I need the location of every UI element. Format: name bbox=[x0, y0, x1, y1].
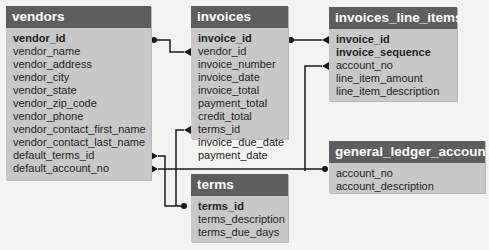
column-vendor-name: vendor_name bbox=[13, 45, 145, 58]
table-vendors[interactable]: vendors vendor_id vendor_name vendor_add… bbox=[6, 6, 151, 180]
one-end-dot-icon bbox=[181, 203, 187, 209]
column-invoice-total: invoice_total bbox=[198, 84, 282, 97]
column-vendor-zip-code: vendor_zip_code bbox=[13, 97, 145, 110]
column-invoice-date: invoice_date bbox=[198, 71, 282, 84]
column-credit-total: credit_total bbox=[198, 110, 282, 123]
column-default-terms-id: default_terms_id bbox=[13, 149, 145, 162]
table-general-ledger-accounts[interactable]: general_ledger_accounts account_no accou… bbox=[329, 141, 485, 193]
column-default-account-no: default_account_no bbox=[13, 162, 145, 175]
table-title: invoices bbox=[191, 6, 288, 28]
table-invoices[interactable]: invoices invoice_id vendor_id invoice_nu… bbox=[191, 6, 288, 139]
many-end-arrow-icon bbox=[151, 165, 158, 173]
column-invoice-sequence: invoice_sequence bbox=[336, 46, 451, 59]
one-end-dot-icon bbox=[288, 37, 294, 43]
column-account-no: account_no bbox=[336, 167, 479, 180]
column-vendor-address: vendor_address bbox=[13, 58, 145, 71]
column-vendor-id: vendor_id bbox=[198, 45, 282, 58]
relation-gla-lineitem bbox=[305, 66, 322, 171]
column-terms-due-days: terms_due_days bbox=[198, 226, 282, 239]
table-title: vendors bbox=[6, 6, 151, 28]
column-account-no: account_no bbox=[336, 59, 451, 72]
column-vendor-id: vendor_id bbox=[13, 32, 145, 45]
column-terms-id: terms_id bbox=[198, 200, 282, 213]
column-invoice-number: invoice_number bbox=[198, 58, 282, 71]
column-invoice-due-date: invoice_due_date bbox=[198, 136, 282, 149]
many-end-arrow-icon bbox=[151, 152, 158, 160]
column-vendor-state: vendor_state bbox=[13, 84, 145, 97]
column-vendor-phone: vendor_phone bbox=[13, 110, 145, 123]
relation-vendor-invoice bbox=[154, 40, 184, 52]
column-line-item-amount: line_item_amount bbox=[336, 72, 451, 85]
relation-terms-vendor bbox=[158, 156, 184, 206]
column-vendor-contact-last-name: vendor_contact_last_name bbox=[13, 136, 145, 149]
many-end-arrow-icon bbox=[184, 48, 191, 56]
column-invoice-id: invoice_id bbox=[336, 33, 451, 46]
table-title: general_ledger_accounts bbox=[329, 141, 485, 163]
many-end-arrow-icon bbox=[322, 36, 329, 44]
column-line-item-description: line_item_description bbox=[336, 85, 451, 98]
column-payment-date: payment_date bbox=[198, 149, 282, 162]
relation-terms-invoice bbox=[176, 130, 184, 206]
column-vendor-city: vendor_city bbox=[13, 71, 145, 84]
column-terms-id: terms_id bbox=[198, 123, 282, 136]
many-end-arrow-icon bbox=[322, 62, 329, 70]
many-end-arrow-icon bbox=[184, 126, 191, 134]
column-account-description: account_description bbox=[336, 180, 479, 193]
column-vendor-contact-first-name: vendor_contact_first_name bbox=[13, 123, 145, 136]
column-terms-description: terms_description bbox=[198, 213, 282, 226]
column-invoice-id: invoice_id bbox=[198, 32, 282, 45]
table-title: invoices_line_items bbox=[329, 7, 457, 29]
table-invoices-line-items[interactable]: invoices_line_items invoice_id invoice_s… bbox=[329, 7, 457, 101]
one-end-dot-icon bbox=[322, 166, 328, 172]
table-terms[interactable]: terms terms_id terms_description terms_d… bbox=[191, 174, 288, 242]
table-title: terms bbox=[191, 174, 288, 196]
column-payment-total: payment_total bbox=[198, 97, 282, 110]
one-end-dot-icon bbox=[151, 37, 157, 43]
